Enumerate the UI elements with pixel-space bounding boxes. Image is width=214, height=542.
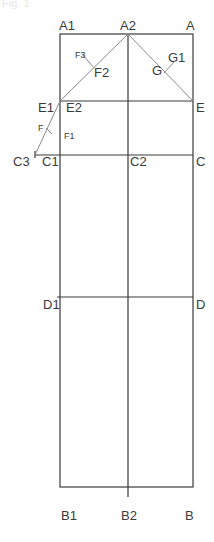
label-e1: E1 xyxy=(38,100,54,115)
label-b1: B1 xyxy=(61,508,77,523)
label-f2: F2 xyxy=(94,65,109,80)
label-f: F xyxy=(38,123,44,133)
label-b2: B2 xyxy=(121,508,137,523)
label-c: C xyxy=(196,154,205,169)
label-e: E xyxy=(196,100,205,115)
label-a2: A2 xyxy=(120,18,136,33)
label-c1: C1 xyxy=(42,154,59,169)
label-g: G xyxy=(152,63,162,78)
label-d1: D1 xyxy=(43,297,60,312)
label-d: D xyxy=(196,297,205,312)
label-b: B xyxy=(185,508,194,523)
label-a1: A1 xyxy=(59,18,75,33)
label-c2: C2 xyxy=(130,154,147,169)
label-a: A xyxy=(186,18,195,33)
label-f1: F1 xyxy=(64,131,75,141)
label-e2: E2 xyxy=(66,100,82,115)
perpendicular-f xyxy=(46,128,52,134)
label-g1: G1 xyxy=(168,50,185,65)
label-c3: C3 xyxy=(13,154,30,169)
pattern-draft-diagram: A1 A2 A F3 F2 G G1 E1 E2 E F F1 C3 C1 C2… xyxy=(0,0,214,542)
label-f3: F3 xyxy=(75,50,86,60)
